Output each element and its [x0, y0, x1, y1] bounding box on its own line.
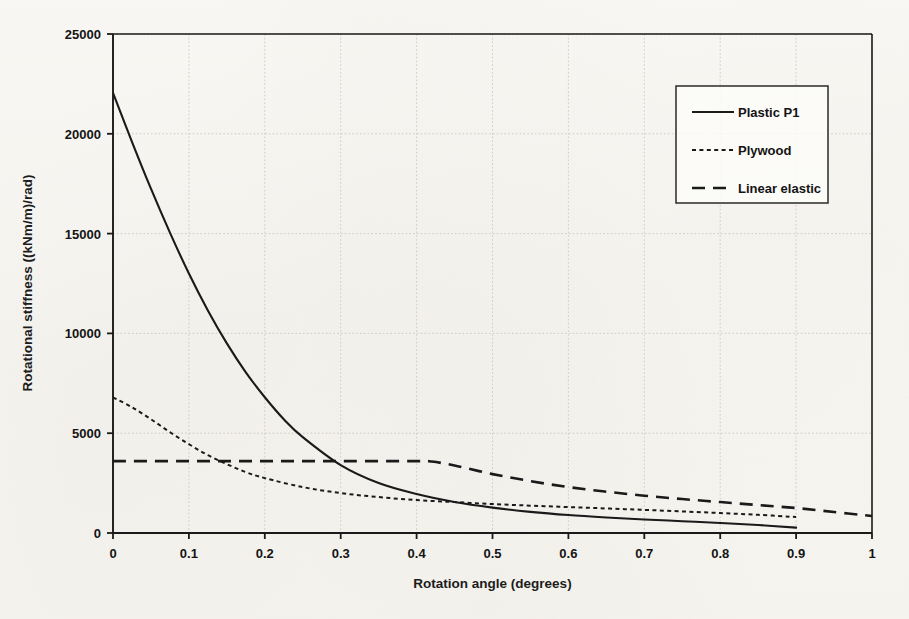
chart-figure: 0500010000150002000025000 00.10.20.30.40…	[0, 0, 909, 619]
y-tick-label: 10000	[65, 326, 101, 341]
x-tick-label: 0.8	[711, 546, 729, 561]
rotational-stiffness-line-chart: 0500010000150002000025000 00.10.20.30.40…	[0, 0, 909, 619]
y-tick-label: 15000	[65, 227, 101, 242]
x-tick-label: 1	[868, 546, 875, 561]
y-tick-label: 25000	[65, 27, 101, 42]
x-tick-label: 0.7	[635, 546, 653, 561]
x-tick-label: 0.9	[787, 546, 805, 561]
y-tick-label: 20000	[65, 127, 101, 142]
y-axis-tick-labels: 0500010000150002000025000	[65, 27, 101, 541]
y-tick-label: 0	[94, 526, 101, 541]
x-tick-label: 0.1	[180, 546, 198, 561]
series-line-plywood	[113, 397, 796, 517]
chart-legend: Plastic P1PlywoodLinear elastic	[676, 86, 828, 203]
x-tick-label: 0	[109, 546, 116, 561]
x-tick-label: 0.5	[483, 546, 501, 561]
y-tick-label: 5000	[72, 426, 101, 441]
y-axis-title: Rotational stiffness ((kNm/m)/rad)	[20, 175, 35, 392]
x-axis-title: Rotation angle (degrees)	[413, 576, 571, 591]
x-tick-label: 0.6	[559, 546, 577, 561]
x-axis-tick-labels: 00.10.20.30.40.50.60.70.80.91	[109, 546, 875, 561]
x-tick-label: 0.2	[256, 546, 274, 561]
legend-label: Linear elastic	[738, 181, 821, 196]
x-tick-label: 0.4	[408, 546, 427, 561]
legend-label: Plywood	[738, 143, 792, 158]
x-tick-label: 0.3	[332, 546, 350, 561]
legend-label: Plastic P1	[738, 105, 799, 120]
